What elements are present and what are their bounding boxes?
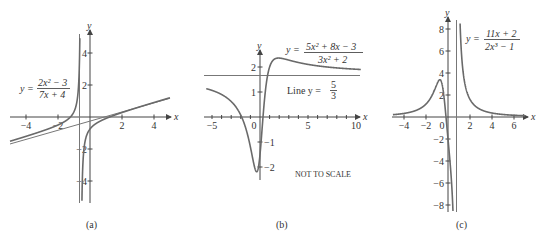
y-axis-label-b: y <box>256 40 262 51</box>
svg-text:2: 2 <box>251 62 256 73</box>
equation-c: y = 11x + 2 2x³ − 1 <box>465 28 520 52</box>
svg-text:0: 0 <box>252 120 257 131</box>
svg-text:−4: −4 <box>21 120 32 131</box>
svg-text:−5: −5 <box>207 120 218 131</box>
caption-a: (a) <box>86 219 97 231</box>
equation-a-lhs: y = <box>19 83 34 94</box>
svg-text:4: 4 <box>439 68 444 79</box>
line-label-prefix: Line y = <box>287 85 321 96</box>
equation-b-denominator: 3x² + 2 <box>317 54 347 65</box>
svg-text:6: 6 <box>512 120 517 131</box>
equation-c-numerator: 11x + 2 <box>486 28 516 39</box>
svg-text:−1: −1 <box>264 137 275 148</box>
graph-b: x y −5051021−1−2 y = 5x² + 8x − 3 3x² + … <box>204 40 368 231</box>
equation-c-lhs: y = <box>465 33 480 44</box>
equation-b-numerator: 5x² + 8x − 3 <box>306 41 356 52</box>
equation-a-numerator: 2x² − 3 <box>38 77 67 88</box>
x-axis-label-a: x <box>173 111 179 122</box>
svg-text:−2: −2 <box>421 120 432 131</box>
caption-c: (c) <box>456 219 467 231</box>
svg-text:0: 0 <box>440 120 445 131</box>
line-label-numerator: 5 <box>331 79 336 90</box>
not-to-scale-note: NOT TO SCALE <box>295 170 351 179</box>
svg-text:2: 2 <box>120 120 125 131</box>
svg-text:8: 8 <box>439 24 444 35</box>
svg-text:−2: −2 <box>433 134 444 145</box>
equation-c-denominator: 2x³ − 1 <box>485 41 514 52</box>
caption-b: (b) <box>276 219 288 231</box>
svg-text:−8: −8 <box>433 200 444 211</box>
graph-c: x y −4−202468642−2−4−6−8 y = 11x + 2 2x³… <box>392 7 536 231</box>
line-label-denominator: 3 <box>331 90 336 101</box>
line-label-b: Line y = 5 3 <box>287 79 337 101</box>
figure-canvas: x y −4−22442−2−4 y = 2x² − 3 7x + 4 (a) … <box>0 0 544 239</box>
svg-text:5: 5 <box>306 120 311 131</box>
svg-text:−4: −4 <box>399 120 410 131</box>
svg-text:6: 6 <box>439 46 444 57</box>
y-axis-label-a: y <box>86 20 92 31</box>
graph-a: x y −4−22442−2−4 y = 2x² − 3 7x + 4 (a) <box>10 20 179 231</box>
svg-text:4: 4 <box>152 120 157 131</box>
svg-text:−2: −2 <box>76 144 87 155</box>
svg-text:10: 10 <box>351 120 361 131</box>
svg-text:2: 2 <box>468 120 473 131</box>
svg-text:4: 4 <box>82 48 87 59</box>
equation-a-denominator: 7x + 4 <box>39 89 65 100</box>
svg-text:−4: −4 <box>433 156 444 167</box>
svg-text:2: 2 <box>82 80 87 91</box>
svg-text:−2: −2 <box>264 162 275 173</box>
y-axis-label-c: y <box>444 7 450 18</box>
equation-a: y = 2x² − 3 7x + 4 <box>19 77 70 100</box>
x-axis-label-b: x <box>362 111 368 122</box>
svg-text:1: 1 <box>251 87 256 98</box>
svg-text:−6: −6 <box>433 178 444 189</box>
equation-b-lhs: y = <box>285 44 300 55</box>
svg-text:4: 4 <box>490 120 495 131</box>
x-axis-label-c: x <box>530 111 536 122</box>
